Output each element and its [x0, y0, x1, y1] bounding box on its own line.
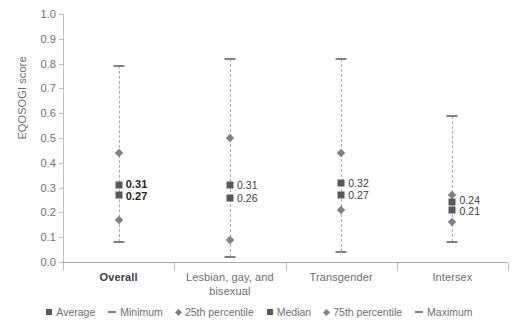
- x-axis-tick: [397, 263, 398, 271]
- diamond-icon: [323, 308, 330, 315]
- dash-icon: [415, 311, 423, 313]
- square-icon: [46, 309, 52, 315]
- legend-item-maximum: Maximum: [415, 306, 473, 318]
- whisker-cap-max: [336, 58, 347, 60]
- whisker-cap-min: [447, 241, 458, 243]
- value-label-average: 0.31: [237, 179, 258, 191]
- whisker-cap-min: [224, 256, 235, 258]
- marker-median: [449, 206, 456, 213]
- x-category-label-line2: bisexual: [209, 285, 250, 297]
- y-axis-line: [63, 14, 64, 263]
- legend-label: Maximum: [427, 306, 473, 318]
- chart-legend: AverageMinimum25th percentileMedian75th …: [0, 306, 519, 318]
- marker-p25: [337, 206, 345, 214]
- y-tick-label: 0.4: [22, 157, 56, 169]
- dash-icon: [108, 311, 116, 313]
- marker-average: [115, 182, 122, 189]
- y-axis-label: EQOSOGI score: [16, 28, 28, 168]
- whisker-line: [230, 59, 231, 257]
- diamond-icon: [175, 308, 182, 315]
- value-label-average: 0.32: [348, 177, 369, 189]
- legend-item-median: Median: [267, 306, 311, 318]
- legend-item-75th-percentile: 75th percentile: [324, 306, 402, 318]
- y-tick-label: 1.0: [22, 8, 56, 20]
- y-tick-label: 0.7: [22, 82, 56, 94]
- x-axis-tick: [286, 263, 287, 271]
- x-category-label: Transgender: [286, 270, 397, 284]
- x-category-label-line1: Transgender: [310, 271, 373, 283]
- y-tick-label: 0.9: [22, 33, 56, 45]
- x-category-label: Lesbian, gay, andbisexual: [174, 270, 285, 298]
- legend-label: Minimum: [120, 306, 163, 318]
- x-category-label: Overall: [63, 270, 174, 284]
- legend-item-minimum: Minimum: [108, 306, 163, 318]
- marker-p75: [226, 134, 234, 142]
- whisker-cap-max: [224, 58, 235, 60]
- value-label-median: 0.21: [459, 205, 480, 217]
- y-tick-label: 0.8: [22, 58, 56, 70]
- eqosogi-score-chart: EQOSOGI score 1.00.90.80.70.60.50.40.30.…: [0, 0, 519, 330]
- marker-average: [449, 199, 456, 206]
- value-label-median: 0.26: [237, 192, 258, 204]
- value-label-average: 0.31: [126, 178, 148, 190]
- y-tick-label: 0.0: [22, 256, 56, 268]
- y-tick-label: 0.1: [22, 231, 56, 243]
- marker-p75: [114, 149, 122, 157]
- whisker-cap-min: [113, 241, 124, 243]
- legend-label: 25th percentile: [185, 306, 254, 318]
- marker-p25: [226, 235, 234, 243]
- marker-p75: [337, 149, 345, 157]
- marker-p25: [114, 216, 122, 224]
- marker-median: [115, 192, 122, 199]
- value-label-median: 0.27: [348, 189, 369, 201]
- marker-median: [338, 192, 345, 199]
- y-tick-label: 0.3: [22, 182, 56, 194]
- x-axis-tick: [174, 263, 175, 271]
- square-icon: [267, 309, 273, 315]
- whisker-cap-max: [113, 65, 124, 67]
- marker-average: [226, 182, 233, 189]
- x-category-label-line1: Intersex: [432, 271, 472, 283]
- x-category-label: Intersex: [397, 270, 508, 284]
- marker-average: [338, 179, 345, 186]
- marker-p25: [448, 218, 456, 226]
- x-axis-tick: [63, 263, 64, 271]
- legend-item-25th-percentile: 25th percentile: [176, 306, 254, 318]
- x-category-label-line1: Lesbian, gay, and: [186, 271, 274, 283]
- legend-item-average: Average: [46, 306, 95, 318]
- y-tick-label: 0.2: [22, 206, 56, 218]
- y-tick-label: 0.5: [22, 132, 56, 144]
- x-axis-tick: [508, 263, 509, 271]
- whisker-cap-min: [336, 251, 347, 253]
- legend-label: Median: [277, 306, 311, 318]
- y-tick-label: 0.6: [22, 107, 56, 119]
- marker-median: [226, 194, 233, 201]
- value-label-median: 0.27: [126, 190, 148, 202]
- whisker-cap-max: [447, 115, 458, 117]
- x-category-label-line1: Overall: [100, 271, 138, 283]
- legend-label: Average: [56, 306, 95, 318]
- legend-label: 75th percentile: [333, 306, 402, 318]
